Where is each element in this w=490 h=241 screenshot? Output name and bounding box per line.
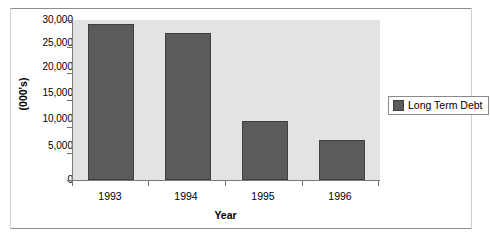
x-axis-tick-mark: [72, 181, 73, 186]
bar-1996: [319, 140, 365, 180]
figure-border-top: [10, 8, 472, 9]
bar-slot: [73, 20, 150, 180]
figure-border-bottom: [10, 228, 472, 229]
bar-1995: [242, 121, 288, 180]
y-axis-tick-label: 25,000: [13, 38, 73, 48]
y-axis-tick-label: 0: [13, 175, 73, 185]
x-axis-tick-mark: [225, 181, 226, 186]
legend-swatch-icon: [393, 100, 404, 111]
figure-border-right: [471, 8, 472, 229]
x-axis-tick-mark: [378, 181, 379, 186]
y-axis-title: (000's): [17, 59, 29, 129]
x-axis-tick-label: 1995: [225, 190, 301, 202]
bar-1993: [88, 24, 134, 180]
legend-item-label: Long Term Debt: [408, 100, 483, 111]
x-axis-tick-mark: [302, 181, 303, 186]
figure-border-left: [10, 8, 11, 229]
chart-legend: Long Term Debt: [388, 96, 489, 115]
bar-1994: [165, 33, 211, 180]
y-axis-tick-label: 5,000: [13, 141, 73, 151]
x-axis-tick-mark: [148, 181, 149, 186]
x-axis-tick-label: 1996: [302, 190, 378, 202]
plot-area: [72, 20, 380, 181]
bar-slot: [227, 20, 304, 180]
chart-figure: 30,000 25,000 20,000 15,000 10,000 5,000…: [0, 0, 490, 241]
y-axis-tick-label: 30,000: [13, 15, 73, 25]
bar-series-long-term-debt: [73, 20, 380, 180]
x-axis-tick-label: 1994: [148, 190, 224, 202]
x-axis-tick-label: 1993: [72, 190, 148, 202]
bar-slot: [150, 20, 227, 180]
x-axis-title: Year: [72, 209, 379, 221]
bar-slot: [303, 20, 380, 180]
